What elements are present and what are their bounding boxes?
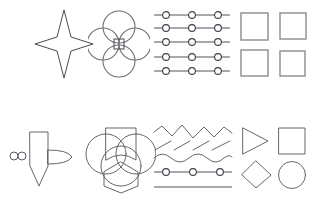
node-rail-row — [154, 12, 230, 19]
node-rail-row — [154, 54, 230, 61]
pencil-pin-icon[interactable] — [8, 124, 78, 190]
node-rail-row — [154, 68, 230, 75]
shape-canvas — [0, 0, 315, 200]
zigzag-wave-stack-icon[interactable] — [152, 124, 234, 192]
grid-square — [280, 13, 306, 39]
node-rail-row — [154, 39, 230, 46]
grid-square — [280, 51, 305, 76]
zigzag-line — [154, 125, 232, 138]
bead — [10, 152, 18, 160]
grid-square — [241, 13, 268, 40]
wave-line — [154, 154, 232, 162]
quatrefoil-circles-icon[interactable] — [88, 10, 150, 78]
hatch-group — [155, 141, 230, 150]
diamond-shape — [242, 161, 271, 188]
triangle-shape — [243, 128, 268, 154]
bead — [18, 152, 26, 160]
primitive-shapes-icon[interactable] — [238, 126, 310, 190]
circle-shape — [279, 162, 306, 189]
node-rail-lines-icon[interactable] — [152, 10, 232, 76]
four-point-star-icon[interactable] — [33, 8, 95, 80]
circle-lower — [101, 146, 141, 186]
pencil-body — [30, 132, 48, 186]
node-rail-row — [154, 169, 232, 176]
bowtie — [106, 128, 136, 160]
node-rail-row — [154, 25, 230, 32]
square-grid-icon[interactable] — [238, 10, 310, 78]
grid-square — [241, 50, 268, 76]
leaf — [48, 150, 72, 164]
circles-hexagon-bowtie-icon[interactable] — [84, 122, 156, 194]
square-shape — [279, 128, 305, 154]
